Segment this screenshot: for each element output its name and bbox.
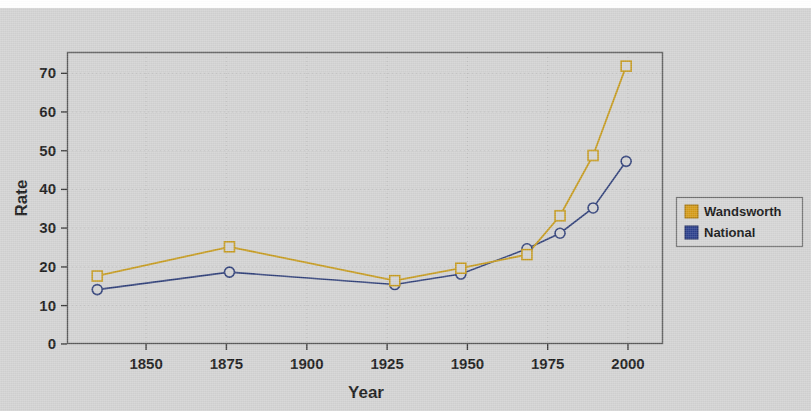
x-tick-label: 1875 bbox=[210, 355, 243, 372]
data-point-marker bbox=[621, 61, 631, 71]
data-point-marker bbox=[522, 250, 532, 260]
y-tick-label: 0 bbox=[48, 335, 56, 352]
chart-legend: Wandsworth National bbox=[677, 198, 803, 247]
y-tick-label: 30 bbox=[39, 219, 56, 236]
data-point-marker bbox=[390, 276, 400, 286]
x-tick-label: 2000 bbox=[611, 355, 644, 372]
data-point-marker bbox=[555, 211, 565, 221]
y-tick-label: 50 bbox=[39, 142, 56, 159]
x-tick-label: 1950 bbox=[451, 355, 484, 372]
data-point-marker bbox=[621, 156, 631, 166]
y-tick-label: 70 bbox=[39, 64, 56, 81]
legend-label-national: National bbox=[704, 225, 755, 240]
x-axis-tick-labels: 1850 1875 1900 1925 1950 1975 2000 bbox=[129, 355, 644, 372]
data-point-marker bbox=[588, 203, 598, 213]
y-axis-tick-labels: 0 10 20 30 40 50 60 70 bbox=[39, 64, 56, 352]
series-line-wandsworth bbox=[97, 66, 626, 281]
legend-swatch-wandsworth bbox=[685, 205, 698, 218]
data-point-marker bbox=[92, 285, 102, 295]
data-point-marker bbox=[555, 228, 565, 238]
series-markers-wandsworth bbox=[92, 61, 631, 286]
data-point-marker bbox=[224, 242, 234, 252]
x-tick-label: 1975 bbox=[531, 355, 564, 372]
x-tick-label: 1900 bbox=[290, 355, 323, 372]
legend-label-wandsworth: Wandsworth bbox=[704, 204, 782, 219]
chart-screenshot: 0 10 20 30 40 50 60 70 1850 1875 1900 19… bbox=[0, 0, 811, 411]
data-point-marker bbox=[456, 263, 466, 273]
plot-frame bbox=[68, 53, 663, 344]
data-point-marker bbox=[588, 151, 598, 161]
line-chart: 0 10 20 30 40 50 60 70 1850 1875 1900 19… bbox=[0, 0, 811, 411]
series-line-national bbox=[97, 161, 626, 289]
x-axis-title: Year bbox=[348, 383, 384, 402]
x-tick-label: 1850 bbox=[129, 355, 162, 372]
y-axis-title: Rate bbox=[12, 180, 31, 217]
gridlines-horizontal bbox=[68, 73, 662, 305]
y-tick-label: 60 bbox=[39, 103, 56, 120]
data-point-marker bbox=[92, 271, 102, 281]
x-tick-label: 1925 bbox=[370, 355, 403, 372]
gridlines-vertical bbox=[146, 53, 628, 343]
x-axis-ticks bbox=[146, 344, 628, 350]
y-tick-label: 10 bbox=[39, 297, 56, 314]
y-tick-label: 20 bbox=[39, 258, 56, 275]
y-tick-label: 40 bbox=[39, 180, 56, 197]
y-axis-ticks bbox=[61, 73, 67, 344]
data-point-marker bbox=[224, 267, 234, 277]
legend-swatch-national bbox=[685, 226, 698, 239]
